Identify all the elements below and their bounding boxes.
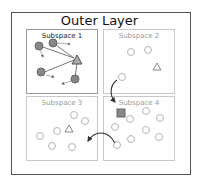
square-node (117, 109, 125, 117)
circle-node (128, 136, 135, 143)
triangle-node (65, 125, 73, 132)
circle-node (128, 49, 135, 56)
triangle-node (153, 63, 161, 70)
triangle-node (72, 55, 82, 64)
circle-node (49, 143, 56, 150)
circle-node (143, 127, 150, 134)
subspace-3-nodes (37, 112, 89, 151)
circle-node (71, 112, 78, 119)
circle-node (37, 133, 44, 140)
circle-node (71, 75, 79, 83)
subspace-1-edges (40, 43, 77, 78)
circle-node (157, 115, 164, 122)
circle-node (145, 47, 152, 54)
circle-node (35, 42, 43, 50)
subspace-1-nodes (35, 39, 82, 83)
circle-node (156, 134, 163, 141)
diagram-overlay (0, 0, 199, 184)
circle-node (37, 68, 45, 76)
circle-node (69, 144, 76, 151)
circle-node (112, 124, 119, 131)
circle-node (54, 128, 61, 135)
subspace-4-nodes (112, 108, 164, 149)
arrow-subspace4-to-3 (88, 133, 115, 143)
subspace-2-nodes (119, 47, 162, 81)
circle-node (119, 74, 126, 81)
circle-node (127, 116, 134, 123)
circle-node (82, 118, 89, 125)
arrow-subspace2-to-4 (111, 80, 117, 102)
circle-node (49, 39, 57, 47)
circle-node (143, 108, 150, 115)
